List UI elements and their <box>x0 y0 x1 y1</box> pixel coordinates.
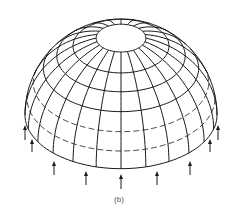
meridian-line <box>76 27 104 31</box>
dome-grid <box>25 19 217 169</box>
meridian-line <box>145 42 214 129</box>
meridian-line <box>28 42 97 129</box>
arrow-up-icon <box>119 174 123 179</box>
meridian-line <box>139 27 167 31</box>
arrow-up-icon <box>216 125 220 130</box>
arrow-up-icon <box>30 139 34 144</box>
arrow-up-icon <box>208 139 212 144</box>
meridian-line <box>146 38 217 115</box>
arrow-up-icon <box>155 171 159 176</box>
meridian-line <box>127 20 134 25</box>
meridian-line <box>25 38 96 115</box>
arrow-up-icon <box>23 125 27 130</box>
meridian-line <box>143 31 186 44</box>
arrow-up-icon <box>52 161 56 166</box>
meridian-line <box>108 20 115 25</box>
parallel-line <box>96 24 146 52</box>
meridian-line <box>56 31 99 44</box>
meridian-line <box>93 23 109 26</box>
dome-diagram <box>0 0 238 220</box>
meridian-line <box>133 23 149 26</box>
figure-caption: (b) <box>0 195 238 204</box>
arrow-up-icon <box>84 171 88 176</box>
arrow-up-icon <box>188 161 192 166</box>
